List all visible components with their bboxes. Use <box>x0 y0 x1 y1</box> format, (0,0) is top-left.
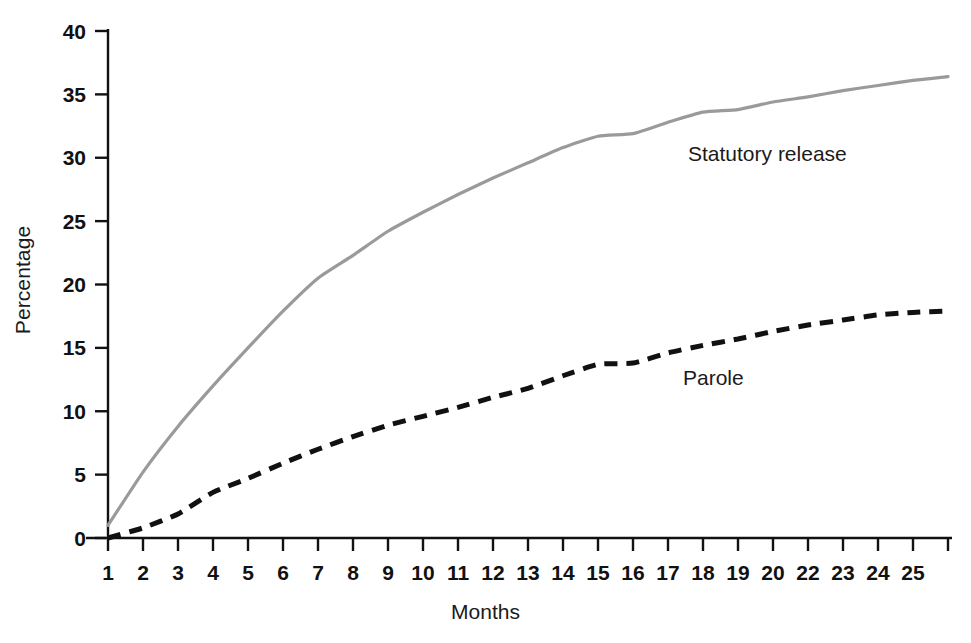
x-axis-tick-label: 5 <box>242 561 254 584</box>
chart-plot-area: 0510152025303540123456789101112131415161… <box>0 0 971 643</box>
y-axis-tick-label: 40 <box>63 20 86 43</box>
y-axis-tick-label: 20 <box>63 273 86 296</box>
y-axis-tick-label: 10 <box>63 400 86 423</box>
y-axis-tick-label: 5 <box>74 463 86 486</box>
x-axis-tick-label: 8 <box>347 561 359 584</box>
x-axis-tick-label: 13 <box>516 561 539 584</box>
x-axis-tick-label: 20 <box>761 561 784 584</box>
y-axis-tick-label: 35 <box>63 83 87 106</box>
chart-figure: 0510152025303540123456789101112131415161… <box>0 0 971 643</box>
x-axis-tick-label: 14 <box>551 561 575 584</box>
x-axis-tick-label: 11 <box>447 561 470 584</box>
y-axis-tick-label: 30 <box>63 146 86 169</box>
series-line-parole <box>108 311 948 538</box>
x-axis-tick-label: 23 <box>831 561 854 584</box>
x-axis-tick-label: 24 <box>866 561 890 584</box>
x-axis-tick-label: 2 <box>137 561 149 584</box>
x-axis-tick-label: 16 <box>621 561 644 584</box>
x-axis-tick-label: 6 <box>277 561 289 584</box>
x-axis-tick-label: 22 <box>796 561 819 584</box>
x-axis-tick-label: 25 <box>901 561 925 584</box>
x-axis-tick-label: 19 <box>726 561 749 584</box>
y-axis-tick-label: 15 <box>63 336 87 359</box>
y-axis-tick-label: 0 <box>74 527 86 550</box>
x-axis-tick-label: 15 <box>586 561 610 584</box>
x-axis-tick-label: 4 <box>207 561 219 584</box>
x-axis-tick-label: 12 <box>481 561 504 584</box>
x-axis-label: Months <box>0 600 971 624</box>
x-axis-tick-label: 9 <box>382 561 394 584</box>
x-axis-tick-label: 17 <box>656 561 679 584</box>
x-axis-tick-label: 1 <box>102 561 114 584</box>
y-axis-tick-label: 25 <box>63 210 87 233</box>
x-axis-tick-label: 18 <box>691 561 715 584</box>
series-label-statutory-release: Statutory release <box>688 142 847 166</box>
x-axis-tick-label: 3 <box>172 561 184 584</box>
x-axis-tick-label: 7 <box>312 561 324 584</box>
series-label-parole: Parole <box>683 366 744 390</box>
x-axis-tick-label: 10 <box>411 561 434 584</box>
